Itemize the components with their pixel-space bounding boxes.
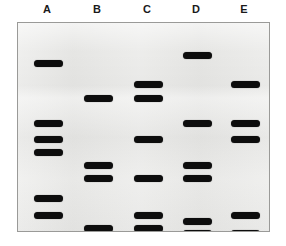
band-lane-e-2 <box>231 120 260 127</box>
band-lane-e-1 <box>231 81 260 88</box>
band-lane-a-5 <box>34 195 63 202</box>
band-lane-b-1 <box>84 95 113 102</box>
band-lane-c-4 <box>134 175 163 182</box>
lane-label-row: ABCDE <box>0 0 286 22</box>
band-lane-d-6 <box>183 230 212 233</box>
band-lane-d-4 <box>183 175 212 182</box>
gel-electrophoresis-figure: ABCDE <box>0 0 286 246</box>
band-lane-c-1 <box>134 81 163 88</box>
band-lane-e-3 <box>231 136 260 143</box>
band-lane-d-5 <box>183 218 212 225</box>
band-lane-e-4 <box>231 212 260 219</box>
band-lane-c-5 <box>134 212 163 219</box>
band-lane-d-2 <box>183 120 212 127</box>
band-lane-e-5 <box>231 230 260 233</box>
lane-label-d: D <box>184 3 208 16</box>
band-lane-a-4 <box>34 149 63 156</box>
band-lane-b-3 <box>84 175 113 182</box>
band-lane-b-4 <box>84 225 113 232</box>
lane-label-c: C <box>135 3 159 16</box>
lane-label-a: A <box>35 3 59 16</box>
band-lane-a-1 <box>34 60 63 67</box>
band-lane-c-6 <box>134 225 163 232</box>
lane-label-e: E <box>232 3 256 16</box>
band-lane-c-3 <box>134 136 163 143</box>
band-lane-a-2 <box>34 120 63 127</box>
band-lane-c-2 <box>134 95 163 102</box>
lane-label-b: B <box>85 3 109 16</box>
band-lane-a-3 <box>34 136 63 143</box>
band-lane-d-3 <box>183 162 212 169</box>
band-lane-a-6 <box>34 212 63 219</box>
band-lane-b-2 <box>84 162 113 169</box>
band-lane-d-1 <box>183 52 212 59</box>
gel-plate <box>17 22 270 232</box>
